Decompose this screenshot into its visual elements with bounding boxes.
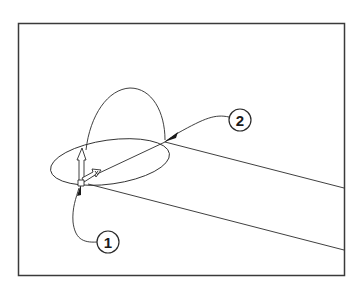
x-axis-arrow-icon — [82, 169, 101, 182]
leader-line-1 — [73, 188, 97, 242]
coordinate-triad — [77, 148, 101, 186]
callout-2-label: 2 — [236, 112, 244, 129]
leader-arrowhead-2 — [164, 132, 178, 142]
callout-1-label: 1 — [104, 234, 112, 251]
cad-diagram: 1 2 — [0, 0, 362, 289]
sweep-path-lines — [88, 142, 344, 250]
horizontal-circle — [48, 132, 173, 192]
triad-origin — [78, 180, 84, 186]
callout-2: 2 — [229, 109, 251, 131]
callout-1: 1 — [97, 231, 119, 253]
vertical-arc — [86, 88, 165, 150]
leader-line-2 — [80, 116, 229, 182]
